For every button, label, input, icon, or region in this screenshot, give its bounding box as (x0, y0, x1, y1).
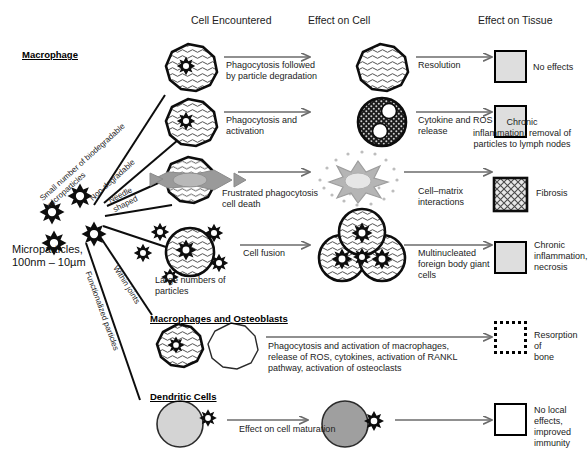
tissue-box-no-effects (494, 50, 527, 83)
group-header-dendritic-cells: Dendritic Cells (150, 391, 217, 402)
arrow-label-row6-a: Effect on cell maturation (239, 424, 335, 435)
branch-label-needle-shaped: Needle shaped (107, 185, 139, 214)
arrow-label-row3-a: Frustrated phagocytosis cell death (222, 188, 318, 210)
tissue-label-chronic-inflammation: Chronic inflammation, removal of particl… (460, 117, 584, 150)
arrow-label-row1-b: Resolution (418, 60, 461, 71)
tissue-box-resorption-of-bone (494, 321, 527, 354)
tissue-label-fibrosis: Fibrosis (536, 188, 568, 199)
arrow-label-row5-a: Phagocytosis and activation of macrophag… (268, 341, 458, 374)
cell-macrophage-row5 (157, 324, 203, 367)
column-header-effect-on-cell: Effect on Cell (308, 14, 370, 26)
tissue-box-fibrosis-fill (494, 178, 527, 211)
branch-label-functionalized-particles: Functionalized particles (83, 270, 121, 352)
tissue-label-no-local-effects: No local effects, improved immunity (534, 405, 571, 449)
column-header-cell-encountered: Cell Encountered (191, 14, 272, 26)
column-header-effect-on-tissue: Effect on Tissue (478, 14, 553, 26)
cell-macrophage-row1 (166, 44, 217, 91)
branch-label-within-joints: Within joints (111, 264, 142, 306)
tissue-label-no-effects: No effects (533, 62, 573, 73)
caption-large-numbers-of-particles: Large numbers of particles (155, 275, 226, 297)
dendritic-cell-row6 (157, 401, 217, 447)
arrow-label-row4-a: Cell fusion (243, 248, 285, 259)
arrow-label-row2-a: Phagocytosis and activation (226, 115, 297, 137)
tissue-box-no-local-effects (494, 403, 527, 436)
effect-cell-row1 (357, 44, 408, 91)
effect-cell-dying-row3 (318, 150, 398, 206)
arrow-label-row4-b: Multinucleated foreign body giant cells (418, 248, 490, 281)
giant-cell-row4 (319, 209, 405, 281)
group-header-macrophage: Macrophage (22, 49, 78, 60)
tissue-label-resorption-of-bone: Resorption of bone (534, 330, 584, 363)
tissue-label-necrosis: Chronic inflammation, necrosis (534, 240, 588, 273)
effect-cell-row2 (358, 98, 406, 146)
source-label-microparticles: Microparticles, 100nm – 10µm (12, 243, 86, 269)
arrow-label-row3-b: Cell–matrix interactions (418, 186, 464, 208)
arrow-label-row1-a: Phagocytosis followed by particle degrad… (226, 60, 317, 82)
cell-macrophage-row2 (166, 99, 217, 146)
group-header-macrophages-osteoblasts: Macrophages and Osteoblasts (150, 313, 288, 324)
tissue-box-necrosis (494, 241, 527, 274)
cell-osteoblast-row5 (208, 323, 258, 369)
